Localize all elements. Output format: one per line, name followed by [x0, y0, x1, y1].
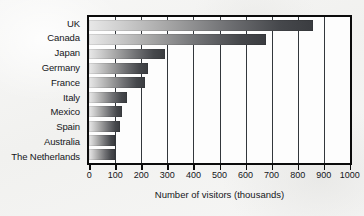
bar-chart-figure: UKCanadaJapanGermanyFranceItalyMexicoSpa…: [0, 0, 364, 216]
bar: [89, 121, 120, 132]
bar: [89, 49, 165, 60]
category-label: France: [0, 75, 84, 90]
tick-label: 500: [212, 171, 227, 180]
bar: [89, 34, 266, 45]
tick-label: 700: [264, 171, 279, 180]
bar: [89, 63, 148, 74]
category-label: Australia: [0, 134, 84, 149]
category-axis: UKCanadaJapanGermanyFranceItalyMexicoSpa…: [0, 16, 84, 164]
category-label: Italy: [0, 90, 84, 105]
bar-row: [89, 133, 350, 147]
bar-row: [89, 32, 350, 46]
category-label: UK: [0, 16, 84, 31]
plot-area: [87, 15, 352, 165]
tick-label: 600: [238, 171, 253, 180]
bar: [89, 77, 145, 88]
tick-label: 400: [186, 171, 201, 180]
tick-label: 200: [134, 171, 149, 180]
bar-row: [89, 104, 350, 118]
tick-label: 900: [316, 171, 331, 180]
bar: [89, 106, 122, 117]
category-label: Germany: [0, 60, 84, 75]
bar-row: [89, 148, 350, 162]
category-label: Canada: [0, 31, 84, 46]
category-label: Japan: [0, 46, 84, 61]
value-axis-tick-labels: 01002003004005006007008009001000: [0, 171, 364, 185]
bar: [89, 20, 313, 31]
category-label: Spain: [0, 120, 84, 135]
tick-label: 300: [160, 171, 175, 180]
bar-row: [89, 47, 350, 61]
bar-row: [89, 119, 350, 133]
bars-group: [89, 17, 350, 163]
tick-label: 100: [108, 171, 123, 180]
bar: [89, 92, 127, 103]
bar-row: [89, 76, 350, 90]
category-label: The Netherlands: [0, 149, 84, 164]
category-label: Mexico: [0, 105, 84, 120]
bar-row: [89, 18, 350, 32]
x-axis-title: Number of visitors (thousands): [87, 190, 352, 200]
tick-label: 1000: [340, 171, 360, 180]
bar-row: [89, 61, 350, 75]
tick-label: 800: [290, 171, 305, 180]
bar: [89, 135, 115, 146]
bar-row: [89, 90, 350, 104]
bar: [89, 149, 115, 160]
tick-label: 0: [87, 171, 92, 180]
